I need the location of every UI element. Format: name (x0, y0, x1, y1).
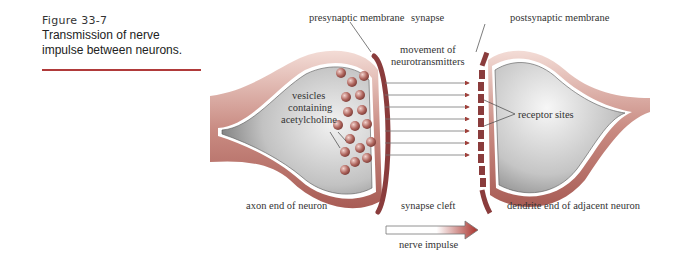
label-vesicles-line3: acetylcholine (281, 114, 337, 125)
label-synapse: synapse (411, 12, 445, 23)
label-movement-line2: neurotransmitters (391, 56, 464, 67)
label-synapse-cleft: synapse cleft (401, 200, 456, 211)
neurotransmitter-arrows (385, 83, 469, 155)
dendrite-terminal (488, 51, 650, 207)
nerve-impulse-arrow (386, 221, 478, 239)
label-movement-line1: movement of (400, 44, 456, 55)
label-nerve-impulse: nerve impulse (399, 239, 459, 250)
label-postsynaptic-membrane: postsynaptic membrane (510, 12, 610, 23)
label-vesicles-line1: vesicles (292, 90, 325, 101)
label-dendrite-end: dendrite end of adjacent neuron (507, 200, 641, 211)
label-axon-end: axon end of neuron (246, 200, 328, 211)
label-receptor-sites: receptor sites (518, 109, 574, 120)
postsynaptic-membrane (478, 52, 490, 213)
label-vesicles-line2: containing (288, 102, 333, 113)
label-presynaptic-membrane: presynaptic membrane (309, 12, 405, 23)
synapse-diagram: presynaptic membrane synapse postsynapti… (0, 0, 684, 261)
